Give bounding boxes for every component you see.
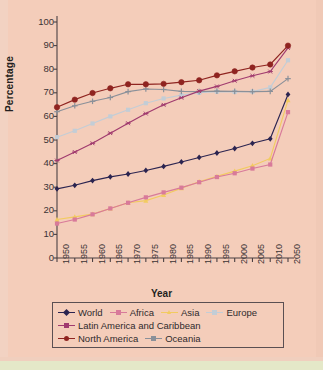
data-point [126,201,130,205]
data-point [144,101,148,105]
data-point [214,73,219,78]
data-point [143,168,148,174]
data-point [108,174,113,180]
data-point [179,186,183,190]
legend-label: Oceania [165,333,200,344]
legend-item-world[interactable]: World [58,307,103,318]
legend-item-asia[interactable]: Asia [161,307,199,318]
data-point [196,78,201,83]
data-point [90,212,94,216]
legend-item-europe[interactable]: Europe [206,307,257,318]
chart-legend: WorldAfricaAsiaEuropeLatin America and C… [52,302,284,348]
data-point [108,114,112,118]
series-line [57,60,288,137]
data-point [125,82,130,87]
series-world [55,92,291,192]
legend-label: Africa [130,307,154,318]
legend-item-oceania[interactable]: Oceania [145,333,200,344]
data-point [285,43,290,48]
legend-marker-icon [110,308,127,317]
data-point [268,162,272,166]
data-point [90,90,95,95]
data-point [72,97,77,102]
data-point [179,159,184,165]
data-point [162,96,166,100]
data-point [232,69,237,74]
legend-label: Europe [226,307,257,318]
data-point [108,86,113,91]
data-point [55,135,59,139]
legend-marker-icon [58,308,75,317]
data-point [286,110,290,114]
data-point [233,171,237,175]
legend-row: Latin America and Caribbean [58,319,278,332]
legend-item-north-america[interactable]: North America [58,333,138,344]
series-asia [55,97,291,221]
data-point [250,166,254,170]
data-point [143,82,148,87]
data-point [126,108,130,112]
data-point [73,129,77,133]
legend-label: North America [78,333,138,344]
legend-marker-icon [58,321,75,330]
data-point [197,180,201,184]
legend-row: WorldAfricaAsiaEurope [58,306,278,319]
legend-item-africa[interactable]: Africa [110,307,154,318]
legend-marker-icon [58,334,75,343]
legend-marker-icon [161,308,178,317]
data-point [90,121,94,125]
series-line [57,100,288,219]
series-europe [55,58,290,139]
data-point [197,155,202,161]
data-point [108,206,112,210]
data-point [250,140,255,146]
series-africa [55,110,290,226]
data-point [215,175,219,179]
series-latin-america-and-caribbean [54,46,290,162]
data-point [54,104,59,109]
data-point [162,190,166,194]
legend-row: North AmericaOceania [58,332,278,345]
figure-page: Percentage Year 0102030405060708090100 1… [0,0,323,370]
legend-item-latin-america-and-caribbean[interactable]: Latin America and Caribbean [58,320,201,331]
legend-marker-icon [206,308,223,317]
data-point [55,221,59,225]
data-point [73,217,77,221]
data-point [215,150,220,156]
data-point [126,171,131,177]
data-point [268,62,273,67]
series-oceania [54,76,291,115]
legend-label: World [78,307,103,318]
legend-marker-icon [145,334,162,343]
data-point [286,92,291,98]
data-point [232,146,237,152]
data-point [72,182,77,188]
data-point [286,58,290,62]
series-north-america [54,43,290,110]
data-point [161,164,166,170]
data-point [179,79,184,84]
data-point [144,195,148,199]
data-point [268,136,273,142]
legend-label: Latin America and Caribbean [78,320,201,331]
data-point [90,178,95,184]
legend-label: Asia [181,307,199,318]
data-point [161,81,166,86]
data-point [250,65,255,70]
